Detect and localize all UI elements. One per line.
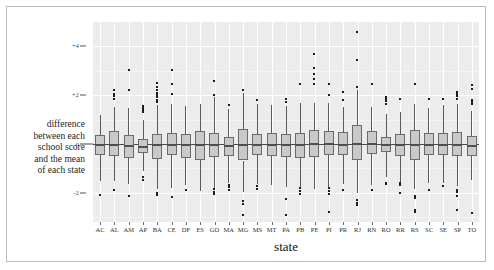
y-axis-label-line: of each state [9, 165, 85, 177]
box-plot-al[interactable] [107, 22, 121, 222]
median-line [267, 144, 277, 146]
outlier-point [356, 204, 358, 206]
box-plot-rj[interactable] [350, 22, 364, 222]
box-plot-mg[interactable] [236, 22, 250, 222]
box-plot-ce[interactable] [165, 22, 179, 222]
x-tick-mark [243, 222, 244, 225]
box-plot-rs[interactable] [408, 22, 422, 222]
box-plot-sc[interactable] [422, 22, 436, 222]
box-plot-sp[interactable] [450, 22, 464, 222]
box-plot-pr[interactable] [336, 22, 350, 222]
median-line [252, 144, 262, 146]
x-axis-title: state [93, 239, 479, 255]
outlier-point [471, 103, 473, 105]
x-tick-mark [415, 222, 416, 225]
whisker-lower [343, 155, 344, 184]
whisker-upper [200, 104, 201, 131]
whisker-lower [400, 156, 401, 183]
box-plot-pi[interactable] [322, 22, 336, 222]
outlier-point [156, 92, 158, 94]
outlier-point [456, 93, 458, 95]
x-tick-label-pb: PB [296, 226, 304, 233]
box-plot-ms[interactable] [250, 22, 264, 222]
box-plot-se[interactable] [436, 22, 450, 222]
outlier-point [313, 83, 315, 85]
whisker-lower [171, 155, 172, 188]
box-plot-df[interactable] [179, 22, 193, 222]
box-plot-mt[interactable] [265, 22, 279, 222]
outlier-point [456, 191, 458, 193]
x-tick-mark [386, 222, 387, 225]
x-tick-label-rr: RR [396, 226, 405, 233]
x-tick-label-ap: AP [139, 226, 147, 233]
box-plot-pa[interactable] [279, 22, 293, 222]
box-plot-to[interactable] [465, 22, 479, 222]
x-tick-label-ms: MS [253, 226, 262, 233]
y-tick-mark [80, 95, 86, 96]
outlier-point [171, 83, 173, 85]
box-plot-es[interactable] [193, 22, 207, 222]
box-plot-go[interactable] [207, 22, 221, 222]
box-plot-ba[interactable] [150, 22, 164, 222]
x-tick-mark [443, 222, 444, 225]
x-tick-label-ro: RO [382, 226, 391, 233]
box-plot-ma[interactable] [222, 22, 236, 222]
outlier-point [471, 101, 473, 103]
whisker-upper [157, 105, 158, 134]
outlier-point [399, 184, 401, 186]
outlier-point [299, 187, 301, 189]
outlier-point [156, 96, 158, 98]
x-tick-mark [458, 222, 459, 225]
whisker-upper [271, 105, 272, 133]
outlier-point [371, 83, 373, 85]
outlier-point [414, 211, 416, 213]
outlier-point [456, 98, 458, 100]
median-line [281, 144, 291, 146]
outlier-point [399, 98, 401, 100]
box-plot-am[interactable] [122, 22, 136, 222]
box-plot-ap[interactable] [136, 22, 150, 222]
median-line [95, 144, 105, 146]
whisker-lower [200, 160, 201, 191]
outlier-point [285, 101, 287, 103]
box-plot-ro[interactable] [379, 22, 393, 222]
x-tick-mark [215, 222, 216, 225]
median-line [324, 143, 334, 145]
box-plot-rr[interactable] [393, 22, 407, 222]
outlier-point [385, 100, 387, 102]
whisker-upper [314, 103, 315, 131]
box-plot-ac[interactable] [93, 22, 107, 222]
whisker-lower [257, 155, 258, 184]
median-line [181, 144, 191, 146]
outlier-point [414, 83, 416, 85]
outlier-point [113, 189, 115, 191]
median-line [410, 144, 420, 146]
box-plot-pe[interactable] [307, 22, 321, 222]
box-plot-pb[interactable] [293, 22, 307, 222]
outlier-point [328, 211, 330, 213]
outlier-point [285, 214, 287, 216]
x-tick-mark [372, 222, 373, 225]
outlier-point [356, 86, 358, 88]
x-tick-label-df: DF [182, 226, 190, 233]
x-tick-label-pa: PA [282, 226, 290, 233]
outlier-point [242, 89, 244, 91]
outlier-point [313, 53, 315, 55]
x-tick-label-sp: SP [454, 226, 461, 233]
whisker-upper [400, 112, 401, 134]
x-tick-label-sc: SC [425, 226, 433, 233]
whisker-lower [157, 159, 158, 189]
outlier-point [356, 199, 358, 201]
box-plot-rn[interactable] [365, 22, 379, 222]
outlier-point [385, 96, 387, 98]
outlier-point [313, 78, 315, 80]
whisker-upper [171, 104, 172, 133]
whisker-lower [443, 155, 444, 183]
median-line [395, 144, 405, 146]
x-tick-mark [100, 222, 101, 225]
outlier-point [328, 193, 330, 195]
outlier-point [113, 98, 115, 100]
x-tick-label-al: AL [110, 226, 119, 233]
x-tick-mark [300, 222, 301, 225]
outlier-point [156, 99, 158, 101]
